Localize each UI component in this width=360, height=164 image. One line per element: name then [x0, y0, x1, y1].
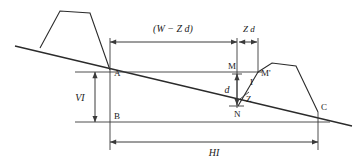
point-label-i: I: [250, 77, 253, 87]
ground-slope-line: [15, 46, 352, 126]
dimension-label-zd: Z d: [243, 24, 255, 34]
diagram-canvas: (W − Z d) Z d VI d HI A B C M M' I N Z: [0, 0, 360, 164]
point-label-z: Z: [246, 94, 252, 104]
point-label-b: B: [114, 111, 120, 121]
left-embankment-outline: [40, 11, 110, 70]
point-label-m-prime: M': [261, 68, 271, 78]
dimension-label-hi: HI: [208, 147, 220, 158]
dimension-label-d: d: [225, 84, 231, 95]
point-label-n: N: [234, 109, 241, 119]
dimension-label-vi: VI: [75, 92, 85, 103]
dimension-label-w-minus-zd: (W − Z d): [153, 23, 193, 35]
point-label-m: M: [228, 61, 236, 71]
point-label-c: C: [321, 102, 327, 112]
point-label-a: A: [114, 68, 121, 78]
cross-section-figure: (W − Z d) Z d VI d HI A B C M M' I N Z: [0, 0, 360, 164]
